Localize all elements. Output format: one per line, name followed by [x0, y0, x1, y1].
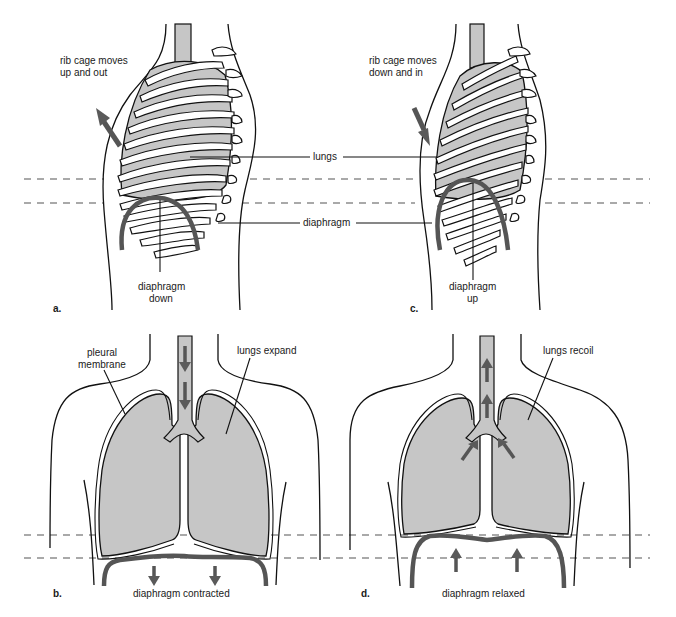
panel-letter-d: d. — [361, 588, 370, 599]
right-lung-b — [188, 394, 269, 556]
left-lung-b — [99, 394, 180, 556]
panel-b: pleural membrane lungs expand diaphragm … — [50, 334, 320, 599]
trachea — [175, 24, 191, 64]
panel-letter-c: c. — [410, 303, 419, 314]
rib-cage-label-c1: rib cage moves — [369, 55, 437, 66]
diaphragm-contracted-label: diaphragm contracted — [133, 588, 230, 599]
body-outline-back — [228, 24, 256, 310]
diaphragm-relaxed-label: diaphragm relaxed — [442, 588, 525, 599]
diaphragm-label: diaphragm — [303, 217, 350, 228]
diaphragm-label-c2: up — [467, 293, 479, 304]
lungs-recoil-leader — [528, 358, 553, 420]
pleural-label-1: pleural — [87, 347, 117, 358]
body-side-right-b — [276, 482, 286, 585]
diaphragm-label-a2: down — [149, 293, 173, 304]
breathing-diagram: rib cage moves up and out diaphragm down… — [0, 0, 676, 617]
diaphragm-up-arrows-icon — [450, 548, 523, 572]
lungs-label: lungs — [313, 151, 337, 162]
pleural-leader — [104, 370, 125, 414]
left-lung-d — [402, 398, 480, 534]
lungs-recoil-label: lungs recoil — [543, 345, 594, 356]
pleural-label-2: membrane — [78, 359, 126, 370]
panel-c: rib cage moves down and in diaphragm up … — [369, 24, 546, 314]
body-side-left-b — [84, 480, 94, 585]
panel-d: lungs recoil diaphragm relaxed d. — [350, 334, 630, 599]
body-side-right-d — [574, 482, 584, 586]
diaphragm-label-c1: diaphragm — [449, 281, 496, 292]
diaphragm-down-arrows-icon — [148, 566, 221, 586]
diaphragm-label-a1: diaphragm — [138, 281, 185, 292]
rib-cage-label-a2: up and out — [60, 67, 107, 78]
rib-cage-label-a1: rib cage moves — [60, 55, 128, 66]
lungs-expand-label: lungs expand — [237, 345, 297, 356]
diaphragm-contracted — [104, 556, 266, 586]
panel-letter-a: a. — [53, 303, 62, 314]
panel-letter-b: b. — [53, 588, 62, 599]
rib-cage-label-c2: down and in — [369, 67, 423, 78]
trachea-c — [470, 24, 484, 68]
panel-a: rib cage moves up and out diaphragm down… — [53, 24, 256, 314]
right-lung-d — [492, 398, 570, 534]
diaphragm-relaxed — [412, 535, 564, 588]
